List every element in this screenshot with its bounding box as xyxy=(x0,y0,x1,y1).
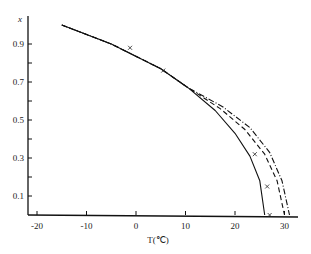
x-tick-label: 20 xyxy=(231,221,241,231)
curve-solid xyxy=(62,25,265,215)
curve-dash-dot xyxy=(62,25,290,215)
y-tick-label: 0.7 xyxy=(13,77,25,87)
plot-area: -20-1001020300.10.30.50.70.9xT(℃) xyxy=(0,0,311,254)
y-tick-label: 0.3 xyxy=(13,153,25,163)
x-tick-label: -10 xyxy=(81,221,93,231)
y-axis-label: x xyxy=(17,14,22,24)
x-tick-label: 0 xyxy=(134,221,139,231)
x-axis xyxy=(28,215,298,217)
x-tick-label: 30 xyxy=(280,221,290,231)
x-tick-label: -20 xyxy=(31,221,43,231)
y-tick-label: 0.9 xyxy=(13,39,25,49)
x-axis-label: T(℃) xyxy=(147,235,169,245)
x-tick-label: 10 xyxy=(181,221,191,231)
data-point-cross xyxy=(265,185,269,189)
curve-dashed xyxy=(62,25,285,215)
y-tick-label: 0.1 xyxy=(13,191,24,201)
data-point-cross xyxy=(253,152,257,156)
chart: -20-1001020300.10.30.50.70.9xT(℃) xyxy=(0,0,311,254)
y-tick-label: 0.5 xyxy=(13,115,25,125)
data-point-cross xyxy=(161,69,165,73)
data-point-cross xyxy=(128,46,132,50)
